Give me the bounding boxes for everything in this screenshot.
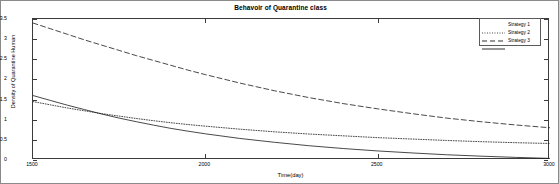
- series-line: [33, 96, 550, 159]
- y-tick-label: 3.5: [0, 15, 7, 21]
- plot-area: [32, 18, 549, 159]
- chart-legend: Strategy 1Strategy 2Strategy 3: [479, 18, 541, 46]
- y-tick-mark: [544, 19, 548, 20]
- y-tick-mark: [33, 100, 37, 101]
- legend-line-icon: [482, 38, 505, 44]
- y-axis-label: Density of Quarantine Human: [10, 12, 17, 132]
- legend-line-icon: [482, 30, 505, 36]
- y-tick-label: 3: [0, 35, 7, 41]
- y-tick-mark: [33, 120, 37, 121]
- chart-title: Behavoir of Quarantine class: [1, 3, 559, 12]
- y-tick-label: 0: [0, 156, 7, 162]
- y-tick-mark: [544, 160, 548, 161]
- y-tick-mark: [33, 59, 37, 60]
- legend-item[interactable]: Strategy 3: [482, 37, 538, 45]
- legend-item[interactable]: Strategy 1: [482, 21, 538, 29]
- y-tick-label: 2: [0, 75, 7, 81]
- y-tick-label: 1: [0, 116, 7, 122]
- legend-item[interactable]: Strategy 2: [482, 29, 538, 37]
- legend-label: Strategy 3: [508, 38, 530, 44]
- y-tick-label: 1.5: [0, 96, 7, 102]
- y-tick-mark: [33, 79, 37, 80]
- series-line: [33, 102, 550, 144]
- y-tick-mark: [33, 160, 37, 161]
- y-tick-label: 0.5: [0, 136, 7, 142]
- y-tick-mark: [544, 79, 548, 80]
- y-tick-mark: [544, 59, 548, 60]
- x-axis-label: Time(day): [32, 171, 549, 179]
- x-tick-label: 3000: [529, 161, 559, 167]
- y-tick-mark: [544, 100, 548, 101]
- x-tick-mark: [205, 154, 206, 158]
- y-tick-mark: [33, 39, 37, 40]
- x-tick-label: 2500: [357, 161, 397, 167]
- y-tick-mark: [544, 140, 548, 141]
- y-tick-mark: [33, 19, 37, 20]
- series-line: [33, 23, 550, 128]
- x-tick-mark: [205, 19, 206, 23]
- x-tick-mark: [378, 154, 379, 158]
- x-tick-label: 2000: [184, 161, 224, 167]
- plot-lines: [33, 19, 550, 160]
- legend-label: Strategy 2: [508, 30, 530, 36]
- x-tick-mark: [378, 19, 379, 23]
- y-tick-label: 2.5: [0, 55, 7, 61]
- legend-label: Strategy 1: [508, 22, 530, 28]
- y-tick-mark: [544, 120, 548, 121]
- x-tick-label: 1500: [12, 161, 52, 167]
- y-tick-mark: [544, 39, 548, 40]
- y-tick-mark: [33, 140, 37, 141]
- legend-line-icon: [482, 22, 505, 28]
- figure-canvas: Behavoir of Quarantine class Density of …: [0, 0, 559, 184]
